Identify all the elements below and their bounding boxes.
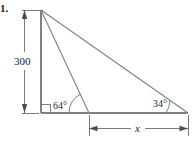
angle-label-64: 64°	[53, 100, 67, 111]
height-arrow-top-icon	[22, 10, 27, 19]
x-arrow-right-icon	[180, 126, 189, 131]
right-angle-marker-icon	[41, 104, 50, 113]
angle-arc-64-icon	[69, 94, 80, 113]
height-dimension-group: 300	[14, 10, 43, 113]
height-dimension-label: 300	[14, 55, 31, 67]
x-dimension-label: x	[134, 122, 140, 134]
height-arrow-bottom-icon	[22, 104, 27, 113]
cevian-line	[41, 10, 89, 113]
triangle-diagram-svg: 64° 34° 300	[0, 0, 193, 143]
angle-label-34: 34°	[153, 98, 167, 109]
x-arrow-left-icon	[89, 126, 98, 131]
x-dimension-group: x	[89, 115, 188, 136]
geometry-figure: 1. 64° 34°	[0, 0, 193, 143]
